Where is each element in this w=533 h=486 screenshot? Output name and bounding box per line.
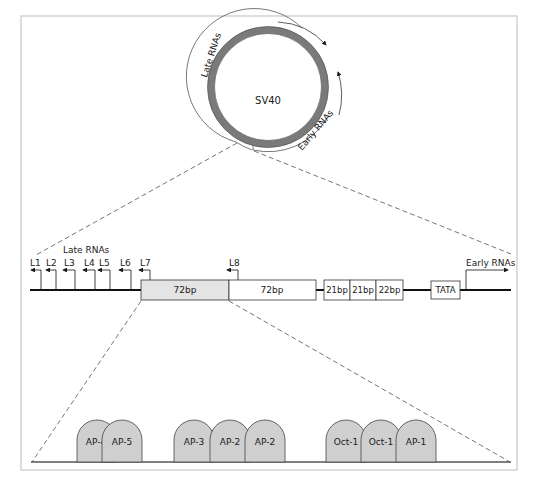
early-direction-arrow (338, 72, 342, 115)
svg-text:L4: L4 (84, 258, 95, 268)
sv40-circle-group: SV40 Late RNAs Early RNAs (186, 9, 341, 153)
svg-text:L8: L8 (229, 258, 240, 268)
svg-text:AP-2: AP-2 (255, 437, 275, 447)
svg-text:TATA: TATA (434, 285, 455, 295)
svg-text:AP-3: AP-3 (184, 437, 204, 447)
late-start-L6: L6 (119, 258, 131, 290)
late-rnas-label: Late RNAs (63, 245, 110, 255)
sv40-genome-ring (211, 30, 325, 144)
svg-text:21bp: 21bp (326, 285, 348, 295)
early-rna-start-arrow (466, 270, 508, 290)
zoom-line-left (36, 143, 237, 255)
late-start-L2: L2 (46, 258, 57, 290)
factor-Oct-1-b: Oct-1 (361, 420, 401, 462)
factor-Oct-1-a: Oct-1 (326, 420, 366, 462)
svg-text:L3: L3 (64, 258, 75, 268)
svg-text:22bp: 22bp (379, 285, 401, 295)
svg-text:21bp: 21bp (352, 285, 374, 295)
late-start-L8: L8 (227, 258, 240, 280)
sv40-label: SV40 (255, 95, 281, 106)
svg-text:Oct-1: Oct-1 (369, 437, 394, 447)
early-rnas-label: Early RNAs (466, 258, 516, 268)
factor-AP-2-a: AP-2 (210, 420, 250, 462)
figure-frame (21, 16, 517, 470)
svg-text:L6: L6 (120, 258, 131, 268)
late-start-L1: L1 (30, 258, 41, 290)
svg-text:L1: L1 (30, 258, 41, 268)
late-start-L7: L7 (139, 258, 151, 280)
svg-text:AP-1: AP-1 (406, 437, 426, 447)
promoter-map: Late RNAs L1 L2 L3 L4 L5 L6 L7 (30, 245, 516, 300)
svg-text:Oct-1: Oct-1 (334, 437, 359, 447)
factor-AP-5: AP-5 (102, 420, 142, 462)
sv40-promoter-diagram: SV40 Late RNAs Early RNAs Late RNAs L1 L… (0, 0, 533, 486)
svg-text:L5: L5 (99, 258, 110, 268)
svg-text:AP-2: AP-2 (220, 437, 240, 447)
svg-text:L7: L7 (140, 258, 151, 268)
factor-AP-3: AP-3 (174, 420, 214, 462)
svg-text:72bp: 72bp (261, 285, 284, 295)
transcription-factors: AP-4 AP-5 AP-3 AP-2 AP-2 Oct-1 Oct-1 (31, 420, 511, 462)
zoom-line-right (254, 151, 511, 254)
svg-text:72bp: 72bp (174, 285, 197, 295)
factor-AP-2-b: AP-2 (245, 420, 285, 462)
svg-text:L2: L2 (46, 258, 57, 268)
svg-text:AP-5: AP-5 (112, 437, 132, 447)
late-start-L5: L5 (98, 258, 110, 290)
late-start-L4: L4 (83, 258, 95, 290)
factor-AP-1: AP-1 (396, 420, 436, 462)
late-start-L3: L3 (63, 258, 75, 290)
